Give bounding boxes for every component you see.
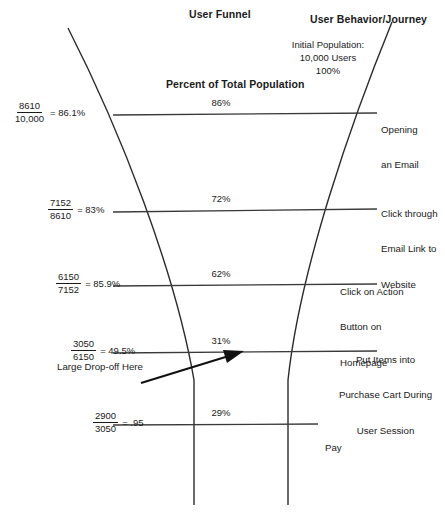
fraction-result: = 85.9% xyxy=(85,278,120,289)
conversion-rate-stage-5: 2900 3050 = .95 xyxy=(93,411,144,434)
page-title: User Funnel xyxy=(189,8,251,20)
conversion-rate-stage-4: 3050 6150 = 49.5% xyxy=(71,339,135,362)
dropoff-annotation-label: Large Drop-off Here xyxy=(57,361,143,372)
percent-label-stage-1: 86% xyxy=(196,97,246,108)
stage-label-line: Click through xyxy=(381,208,438,220)
conversion-rate-stage-1: 8610 10,000 = 86.1% xyxy=(13,101,85,124)
fraction-numerator: 8610 xyxy=(17,101,42,113)
fraction-denominator: 8610 xyxy=(48,210,73,221)
fraction-result: = .95 xyxy=(122,417,143,428)
stage-label-line: User Session xyxy=(326,425,445,437)
stage-label-line: Pay xyxy=(325,442,342,454)
fraction-result: = 86.1% xyxy=(50,107,85,118)
fraction-numerator: 3050 xyxy=(71,339,96,351)
percent-label-stage-2: 72% xyxy=(196,193,246,204)
fraction-denominator: 7152 xyxy=(56,284,81,295)
stage-line-1 xyxy=(113,113,377,115)
stage-label-line: Put Items into xyxy=(326,354,445,366)
fraction-stage-1: 8610 10,000 xyxy=(13,101,46,124)
stage-line-3 xyxy=(113,284,377,286)
conversion-rate-stage-3: 6150 7152 = 85.9% xyxy=(56,272,120,295)
stage-label-opening-an-email: Opening an Email xyxy=(381,100,419,195)
stage-label-line: Opening xyxy=(381,124,419,136)
fraction-denominator: 10,000 xyxy=(13,113,46,124)
stage-label-pay: Pay xyxy=(325,418,342,477)
stage-label-put-items-into-cart: Put Items into Purchase Cart During User… xyxy=(326,330,445,460)
fraction-stage-2: 7152 8610 xyxy=(48,198,73,221)
stage-line-5 xyxy=(113,424,318,425)
stage-label-line: an Email xyxy=(381,159,419,171)
fraction-result: = 83% xyxy=(77,204,104,215)
fraction-stage-4: 3050 6150 xyxy=(71,339,96,362)
fraction-numerator: 2900 xyxy=(93,411,118,423)
fraction-denominator: 3050 xyxy=(93,423,118,434)
journey-axis-title: User Behavior/Journey xyxy=(310,13,427,25)
fraction-stage-3: 6150 7152 xyxy=(56,272,81,295)
initial-population-line-1: Initial Population: xyxy=(271,39,385,50)
initial-population-line-3: 100% xyxy=(271,65,385,76)
percent-label-stage-5: 29% xyxy=(196,407,246,418)
dropoff-arrow xyxy=(141,350,244,383)
fraction-result: = 49.5% xyxy=(100,345,135,356)
percent-axis-title: Percent of Total Population xyxy=(166,78,304,90)
funnel-diagram: User Funnel User Behavior/Journey Percen… xyxy=(0,0,445,522)
stage-line-2 xyxy=(113,209,377,212)
fraction-numerator: 6150 xyxy=(56,272,81,284)
stage-label-line: Purchase Cart During xyxy=(326,389,445,401)
initial-population-line-2: 10,000 Users xyxy=(271,52,385,63)
stage-label-line: Email Link to xyxy=(381,243,438,255)
conversion-rate-stage-2: 7152 8610 = 83% xyxy=(48,198,104,221)
percent-label-stage-3: 62% xyxy=(196,268,246,279)
percent-label-stage-4: 31% xyxy=(196,335,246,346)
stage-label-line: Click on Action xyxy=(340,286,404,298)
fraction-numerator: 7152 xyxy=(48,198,73,210)
fraction-stage-5: 2900 3050 xyxy=(93,411,118,434)
